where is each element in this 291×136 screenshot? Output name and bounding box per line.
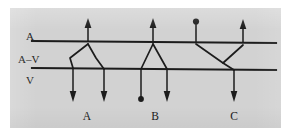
inflow-arrow-a1-head [85, 18, 92, 28]
group-label-c: C [230, 110, 238, 122]
shunt-a-left-branch [70, 44, 88, 68]
outflow-arrow-a2 [101, 69, 108, 102]
outflow-arrow-c1 [231, 70, 238, 102]
outflow-arrow-a1 [70, 68, 77, 102]
inflow-arrow-b1 [150, 18, 157, 42]
figure-panel: A A–V V [10, 8, 281, 128]
outflow-arrows [70, 68, 238, 102]
shunt-a-right-branch [88, 44, 104, 69]
inflow-arrow-a1 [85, 18, 92, 41]
level-label-venous: V [26, 74, 34, 86]
outflow-arrow-b1-node-dot [138, 96, 144, 102]
inflow-arrow-b1-head [150, 18, 157, 28]
shunt-diagram: A A–V V [10, 8, 281, 128]
level-label-arteriovenous: A–V [18, 53, 39, 65]
shunt-group-a [70, 44, 104, 69]
group-labels: A B C [83, 110, 238, 122]
inflow-arrow-c2-head [240, 19, 247, 29]
inflow-arrow-c1-node-dot [193, 18, 199, 24]
level-label-arterial: A [26, 30, 34, 42]
outflow-arrow-c1-head [231, 91, 238, 102]
figure-page: A A–V V [0, 0, 291, 136]
outflow-arrow-b2-head [164, 91, 171, 102]
shunt-b-left-branch [141, 44, 153, 69]
outflow-arrow-b1 [138, 69, 144, 102]
inflow-arrow-c1 [193, 18, 199, 43]
shunt-c-left-branch [196, 44, 234, 70]
inflow-arrows [85, 18, 247, 43]
venous-line [32, 68, 276, 70]
inflow-arrow-c2 [240, 19, 247, 43]
shunt-group-b [141, 44, 167, 69]
group-label-b: B [151, 110, 159, 122]
arterial-line [32, 41, 276, 43]
group-label-a: A [83, 110, 92, 122]
shunt-c-right-branch [223, 45, 243, 63]
shunt-group-c [196, 44, 243, 70]
level-labels: A A–V V [18, 30, 39, 86]
outflow-arrow-b2 [164, 69, 171, 102]
outflow-arrow-a2-head [101, 91, 108, 102]
shunt-b-right-branch [153, 44, 167, 69]
outflow-arrow-a1-head [70, 91, 77, 102]
